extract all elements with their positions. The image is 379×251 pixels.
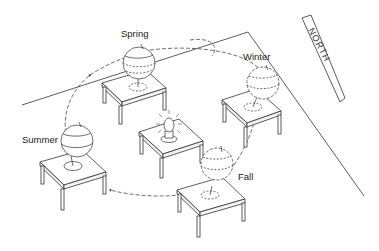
label-summer: Summer — [22, 134, 58, 145]
north-sign-text: NORTH — [306, 26, 332, 63]
table-summer — [40, 150, 106, 210]
label-winter: Winter — [243, 51, 270, 62]
label-fall: Fall — [238, 171, 253, 182]
seasons-diagram: NORTH Spring — [0, 0, 379, 251]
table-winter — [222, 89, 281, 147]
table-fall — [177, 177, 245, 237]
diagram-canvas: NORTH Spring — [0, 0, 379, 251]
label-spring: Spring — [121, 28, 148, 39]
north-sign: NORTH — [302, 15, 345, 102]
